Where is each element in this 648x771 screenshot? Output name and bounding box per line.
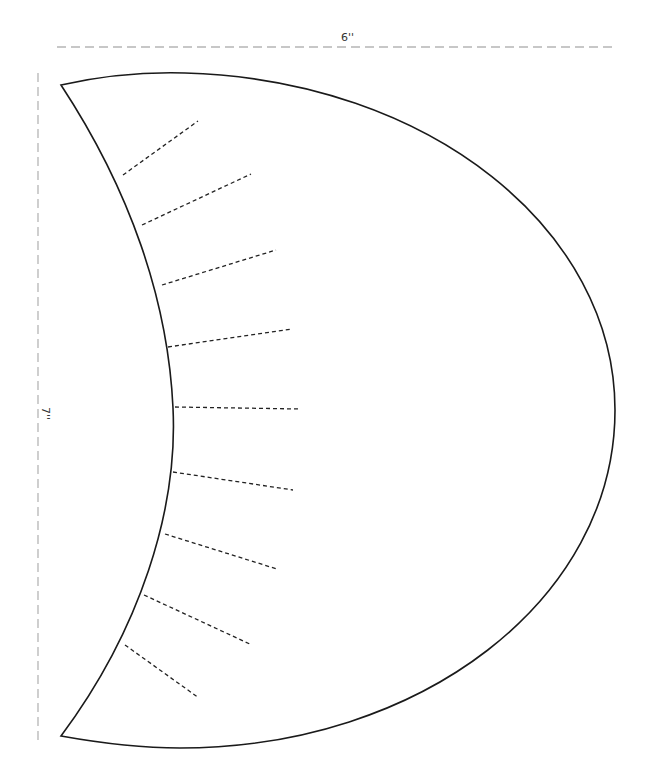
pattern-diagram: 6'' 7''	[0, 0, 648, 771]
crescent-outline	[61, 73, 615, 748]
slash-line-4	[168, 329, 292, 347]
width-dimension: 6''	[57, 31, 612, 47]
slash-line-2	[142, 174, 251, 225]
height-dimension: 7''	[38, 73, 52, 742]
slash-line-3	[162, 250, 276, 285]
slash-line-5	[175, 407, 301, 409]
slash-line-1	[123, 121, 198, 175]
width-label: 6''	[341, 31, 354, 44]
slash-lines	[123, 121, 301, 698]
height-label: 7''	[39, 407, 52, 420]
slash-line-9	[125, 645, 199, 698]
slash-line-6	[173, 472, 293, 490]
slash-line-8	[144, 595, 252, 645]
slash-line-7	[165, 534, 277, 569]
